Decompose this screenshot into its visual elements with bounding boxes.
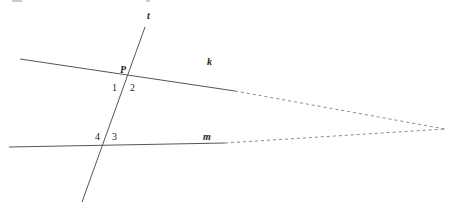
label-angle-3: 3 [112, 131, 117, 142]
transversal-diagram: t P k 1 2 4 3 m [0, 0, 456, 212]
label-angle-1: 1 [112, 82, 117, 93]
line-m-solid [9, 143, 225, 147]
cut-off-text-fragment [12, 0, 22, 2]
line-t-transversal [82, 27, 145, 202]
label-line-k: k [207, 56, 212, 67]
label-point-p: P [120, 64, 127, 75]
label-line-t: t [147, 10, 151, 21]
line-m-dashed-extension [225, 129, 445, 143]
label-angle-2: 2 [130, 82, 135, 93]
line-k-dashed-extension [235, 91, 445, 129]
label-line-m: m [203, 131, 211, 142]
label-angle-4: 4 [95, 131, 100, 142]
cut-off-text-fragment [146, 0, 150, 2]
